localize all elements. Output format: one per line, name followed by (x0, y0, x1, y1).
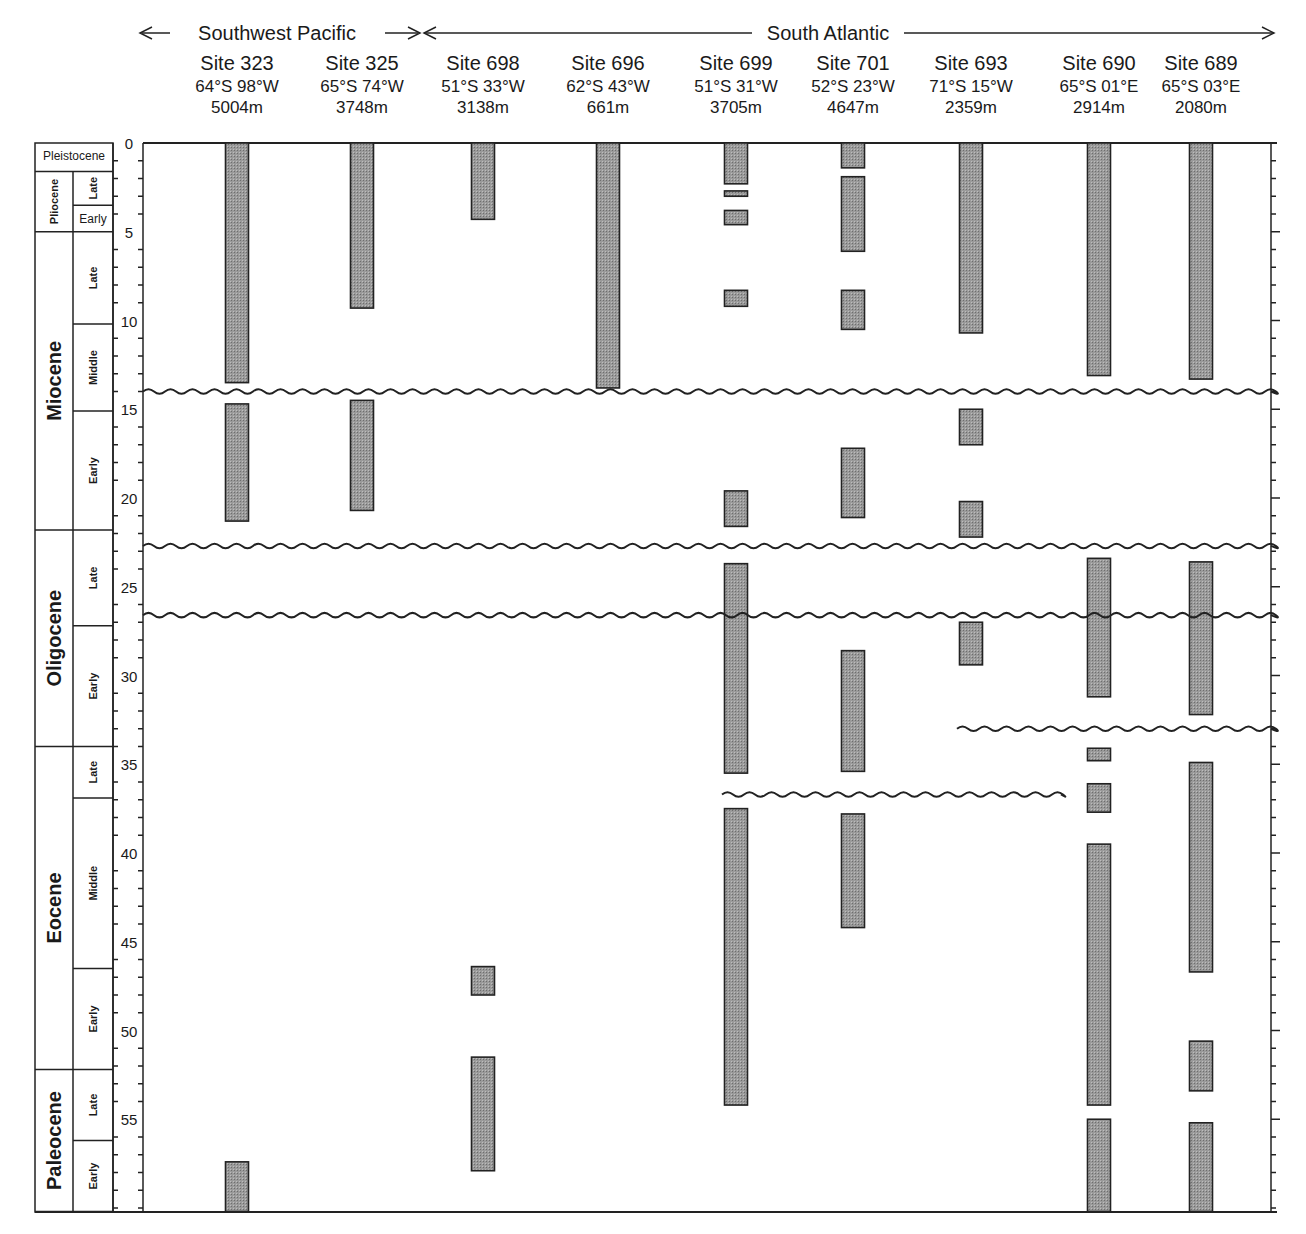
subepoch-label: Early (87, 672, 99, 700)
occurrence-bar (472, 1057, 495, 1171)
hiatus-line (143, 544, 1278, 549)
epoch-label-paleocene: Paleocene (43, 1091, 65, 1190)
site-coordinates: 51°S 31°W (694, 77, 778, 96)
subepoch-label: Early (87, 1162, 99, 1190)
epoch-label-oligocene: Oligocene (43, 590, 65, 687)
occurrence-bar (725, 491, 748, 527)
age-tick-label: 40 (121, 845, 138, 862)
site-name: Site 689 (1164, 52, 1237, 74)
age-tick-label: 20 (121, 490, 138, 507)
occurrence-bar (1088, 748, 1111, 760)
occurrence-bar (725, 143, 748, 184)
epoch-label-eocene: Eocene (43, 872, 65, 943)
site-coordinates: 64°S 98°W (195, 77, 279, 96)
site-name: Site 696 (571, 52, 644, 74)
site-coordinates: 71°S 15°W (929, 77, 1013, 96)
geologic-timescale-column: PleistocenePlioceneLateEarlyMioceneLateM… (35, 143, 113, 1212)
site-name: Site 698 (446, 52, 519, 74)
site-column-site-701 (842, 143, 865, 928)
chart-header: Southwest PacificSouth AtlanticSite 3236… (140, 20, 1274, 117)
subepoch-label: Late (87, 177, 99, 200)
occurrence-bar (842, 448, 865, 517)
stratigraphic-range-chart: Southwest PacificSouth AtlanticSite 3236… (0, 0, 1306, 1234)
age-tick-label: 50 (121, 1023, 138, 1040)
age-tick-label: 10 (121, 313, 138, 330)
occurrence-bar (1190, 1041, 1213, 1091)
occurrence-bar (1088, 1119, 1111, 1211)
site-water-depth: 2914m (1073, 98, 1125, 117)
subepoch-label: Late (87, 267, 99, 290)
site-coordinates: 65°S 74°W (320, 77, 404, 96)
occurrence-bar (842, 290, 865, 329)
epoch-label-pliocene: Pliocene (48, 179, 60, 224)
site-water-depth: 3705m (710, 98, 762, 117)
occurrence-bar (842, 814, 865, 928)
site-water-depth: 661m (587, 98, 630, 117)
occurrence-bar (1190, 762, 1213, 971)
epoch-label-pleistocene: Pleistocene (43, 149, 105, 163)
age-tick-label: 55 (121, 1111, 138, 1128)
occurrence-bar (725, 809, 748, 1105)
age-tick-label: 0 (125, 135, 133, 152)
occurrence-bar (960, 502, 983, 538)
occurrence-bar (226, 404, 249, 521)
subepoch-label: Early (87, 1005, 99, 1033)
region-label-south-atlantic: South Atlantic (767, 22, 889, 44)
occurrence-bar (725, 290, 748, 306)
epoch-label-miocene: Miocene (43, 341, 65, 421)
occurrence-bar (1088, 143, 1111, 376)
hiatus-line (722, 792, 1065, 797)
site-name: Site 325 (325, 52, 398, 74)
occurrence-bar (226, 143, 249, 383)
occurrence-bar (842, 651, 865, 772)
site-column-site-693 (960, 143, 983, 665)
occurrence-bar (1190, 562, 1213, 715)
occurrence-bars (226, 143, 1213, 1212)
age-tick-label: 25 (121, 579, 138, 596)
site-water-depth: 3748m (336, 98, 388, 117)
site-coordinates: 65°S 01°E (1060, 77, 1139, 96)
site-name: Site 701 (816, 52, 889, 74)
site-water-depth: 2080m (1175, 98, 1227, 117)
site-name: Site 693 (934, 52, 1007, 74)
site-coordinates: 65°S 03°E (1162, 77, 1241, 96)
subepoch-label: Late (87, 761, 99, 784)
subepoch-label: Early (87, 456, 99, 484)
occurrence-bar (1088, 558, 1111, 696)
subepoch-label: Middle (87, 866, 99, 901)
age-tick-label: 30 (121, 668, 138, 685)
site-name: Site 699 (699, 52, 772, 74)
site-water-depth: 3138m (457, 98, 509, 117)
site-water-depth: 5004m (211, 98, 263, 117)
hiatus-line (143, 389, 1278, 394)
chart-canvas: Southwest PacificSouth AtlanticSite 3236… (0, 0, 1306, 1234)
site-coordinates: 62°S 43°W (566, 77, 650, 96)
subepoch-label: Late (87, 567, 99, 590)
site-column-site-323 (226, 143, 249, 1212)
site-column-site-696 (597, 143, 620, 388)
site-column-site-699 (725, 143, 748, 1105)
site-water-depth: 2359m (945, 98, 997, 117)
site-name: Site 323 (200, 52, 273, 74)
occurrence-bar (960, 622, 983, 665)
site-name: Site 690 (1062, 52, 1135, 74)
age-tick-label: 35 (121, 756, 138, 773)
occurrence-bar (226, 1162, 249, 1212)
occurrence-bar (1088, 784, 1111, 812)
occurrence-bar (725, 564, 748, 773)
occurrence-bar (351, 143, 374, 308)
occurrence-bar (472, 143, 495, 219)
occurrence-bar (597, 143, 620, 388)
occurrence-bar (960, 409, 983, 445)
occurrence-bar (842, 177, 865, 252)
occurrence-bar (960, 143, 983, 333)
site-column-site-690 (1088, 143, 1111, 1212)
occurrence-bar (1190, 143, 1213, 379)
occurrence-bar (842, 143, 865, 168)
region-label-southwest-pacific: Southwest Pacific (198, 22, 356, 44)
age-tick-label: 15 (121, 401, 138, 418)
occurrence-bar (1088, 844, 1111, 1105)
site-column-site-689 (1190, 143, 1213, 1212)
occurrence-bar (725, 210, 748, 224)
occurrence-bar (472, 967, 495, 995)
